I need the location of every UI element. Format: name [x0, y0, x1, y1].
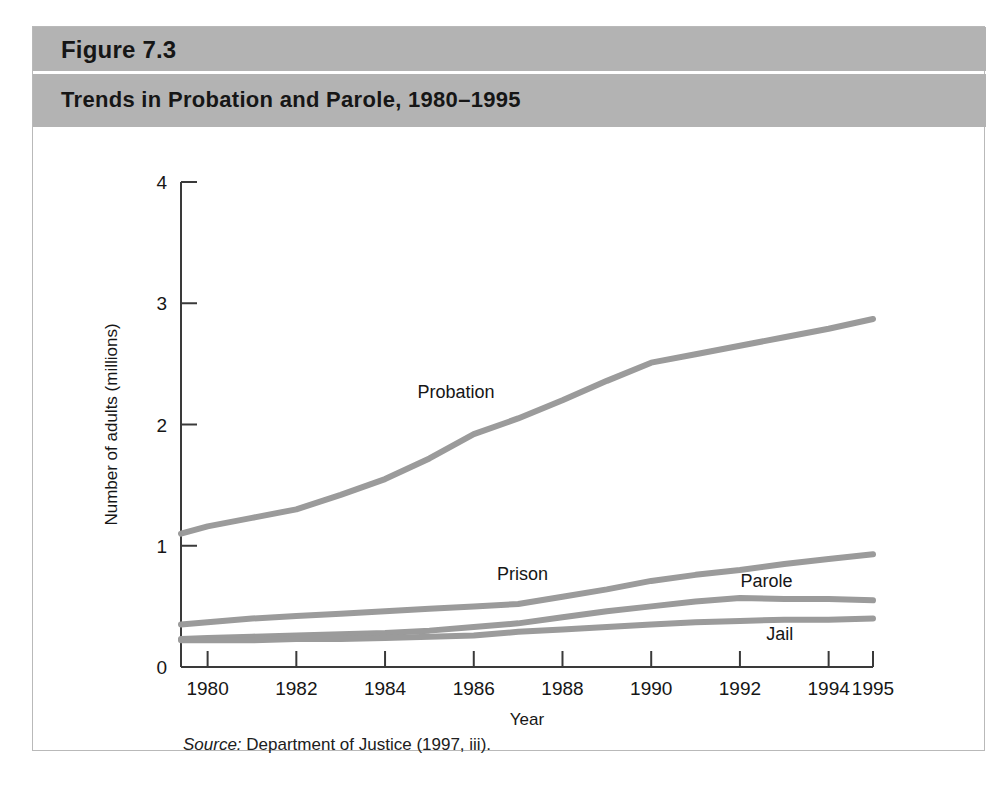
series-line-probation [181, 319, 873, 534]
series-label-jail: Jail [766, 624, 793, 644]
series-label-prison: Prison [497, 564, 548, 584]
chart-series-group [181, 319, 873, 640]
y-tick-label: 0 [156, 657, 167, 678]
x-tick-label: 1988 [541, 678, 583, 699]
series-label-probation: Probation [417, 382, 494, 402]
x-tick-label: 1980 [186, 678, 228, 699]
figure-container: Figure 7.3 Trends in Probation and Parol… [32, 26, 985, 751]
x-tick-label: 1984 [364, 678, 407, 699]
y-tick-label: 1 [156, 536, 167, 557]
source-label: Source: [183, 735, 242, 754]
line-chart: 0123419801982198419861988199019921994199… [33, 127, 986, 752]
x-tick-label: 1982 [275, 678, 317, 699]
x-axis-title: Year [510, 710, 545, 729]
y-tick-label: 2 [156, 415, 167, 436]
y-tick-label: 4 [156, 172, 167, 193]
y-axis-title: Number of adults (millions) [102, 323, 121, 525]
x-tick-label: 1994 [808, 678, 851, 699]
x-tick-label: 1990 [630, 678, 672, 699]
series-label-parole: Parole [741, 571, 793, 591]
y-tick-label: 3 [156, 293, 167, 314]
figure-number: Figure 7.3 [61, 36, 176, 64]
figure-title: Trends in Probation and Parole, 1980–199… [61, 87, 521, 113]
x-tick-label: 1995 [852, 678, 894, 699]
source-note: Source: Department of Justice (1997, iii… [183, 735, 491, 755]
x-tick-label: 1986 [453, 678, 495, 699]
chart-plot-area: 0123419801982198419861988199019921994199… [33, 127, 986, 752]
x-tick-label: 1992 [719, 678, 761, 699]
source-text: Department of Justice (1997, iii). [242, 735, 491, 754]
